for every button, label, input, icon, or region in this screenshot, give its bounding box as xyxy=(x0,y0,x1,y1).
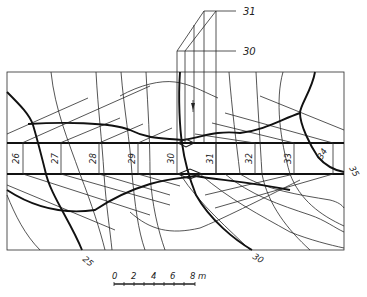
station-label: 31 xyxy=(205,153,215,164)
scale-tick-6: 6 xyxy=(170,271,176,281)
station-label: 34 xyxy=(315,147,329,161)
scale-tick-8: 8 xyxy=(190,271,196,281)
scale-unit: m xyxy=(198,271,206,281)
station-label: 33 xyxy=(283,153,293,164)
station-label: 27 xyxy=(50,153,60,164)
scale-bar: 0 2 4 6 8 m xyxy=(112,271,206,286)
callout-label-31: 31 xyxy=(243,6,256,17)
station-label: 32 xyxy=(244,153,254,164)
contour-label-30: 30 xyxy=(251,251,265,265)
station-labels: 26 27 28 29 30 31 32 33 34 xyxy=(11,147,329,164)
station-label: 30 xyxy=(166,153,176,164)
callout-label-30: 30 xyxy=(243,46,256,57)
station-label: 26 xyxy=(11,153,21,164)
station-label: 29 xyxy=(127,153,137,164)
contour-label-35: 35 xyxy=(347,164,361,178)
scale-tick-0: 0 xyxy=(112,271,117,281)
contour-label-25: 25 xyxy=(81,254,96,269)
scale-tick-2: 2 xyxy=(131,271,136,281)
station-label: 28 xyxy=(88,153,98,164)
contour-plan-diagram: 31 30 26 27 28 29 30 31 32 33 34 25 30 3… xyxy=(0,0,367,297)
scale-tick-4: 4 xyxy=(151,271,156,281)
